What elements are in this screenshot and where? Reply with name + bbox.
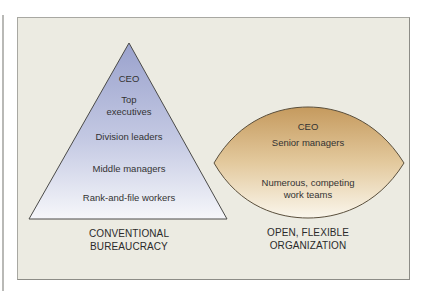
pyramid-level-ceo: CEO <box>119 73 140 85</box>
pyramid-level-rank-and-file: Rank-and-file workers <box>83 192 175 204</box>
leaf-level-work-teams: Numerous, competing work teams <box>262 177 355 200</box>
caption-conventional-bureaucracy: CONVENTIONAL BUREAUCRACY <box>89 228 169 253</box>
caption-open-flexible-organization: OPEN, FLEXIBLE ORGANIZATION <box>267 227 349 252</box>
diagram-shapes <box>0 0 422 291</box>
pyramid-level-top-executives: Top executives <box>107 94 152 117</box>
pyramid-level-middle-managers: Middle managers <box>93 163 166 175</box>
leaf-level-senior-managers: Senior managers <box>272 137 344 149</box>
leaf-level-ceo: CEO <box>298 121 319 133</box>
pyramid-level-division-leaders: Division leaders <box>95 131 162 143</box>
